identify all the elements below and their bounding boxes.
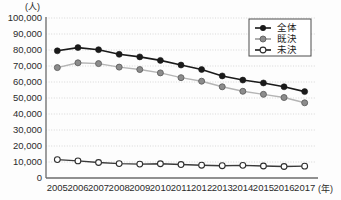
- data-point: [75, 158, 81, 164]
- y-tick-label: 90,000: [13, 28, 42, 39]
- data-point: [302, 100, 308, 106]
- data-point: [199, 78, 205, 84]
- x-tick-label: 2009: [129, 182, 150, 193]
- y-tick-label: 40,000: [13, 108, 42, 119]
- line-chart: 010,00020,00030,00040,00050,00060,00070,…: [0, 0, 341, 200]
- x-tick-label: 2017: [294, 182, 315, 193]
- data-point: [178, 62, 184, 68]
- data-point: [302, 163, 308, 169]
- data-point: [281, 164, 287, 170]
- x-tick-label: 2006: [67, 182, 88, 193]
- y-tick-label: 30,000: [13, 124, 42, 135]
- data-point: [54, 48, 60, 54]
- data-point: [157, 161, 163, 167]
- data-point: [137, 161, 143, 167]
- y-tick-label: 100,000: [8, 12, 42, 23]
- data-point: [75, 45, 81, 51]
- y-tick-label: 50,000: [13, 92, 42, 103]
- data-point: [178, 75, 184, 81]
- data-point: [281, 95, 287, 101]
- legend-label: 全体: [277, 22, 297, 33]
- y-tick-label: 20,000: [13, 140, 42, 151]
- y-axis-tick-labels: 010,00020,00030,00040,00050,00060,00070,…: [8, 12, 42, 183]
- legend-label: 既決: [277, 33, 297, 44]
- data-point: [260, 91, 266, 97]
- legend-marker-open-circle-icon: [260, 47, 266, 53]
- data-point: [302, 89, 308, 95]
- data-point: [219, 163, 225, 169]
- data-point: [157, 57, 163, 63]
- y-tick-label: 70,000: [13, 60, 42, 71]
- x-tick-label: 2015: [253, 182, 274, 193]
- chart-container: 010,00020,00030,00040,00050,00060,00070,…: [0, 0, 341, 200]
- y-tick-label: 60,000: [13, 76, 42, 87]
- data-point: [96, 61, 102, 67]
- x-tick-label: 2014: [232, 182, 253, 193]
- data-point: [137, 67, 143, 73]
- data-point: [219, 73, 225, 79]
- data-point: [240, 88, 246, 94]
- data-point: [261, 163, 267, 169]
- data-point: [240, 162, 246, 168]
- x-axis-unit-label: (年): [318, 183, 333, 194]
- data-point: [116, 64, 122, 70]
- data-point: [157, 70, 163, 76]
- data-point: [178, 162, 184, 168]
- data-point: [96, 160, 102, 166]
- data-point: [54, 157, 60, 163]
- y-tick-label: 0: [37, 172, 42, 183]
- data-point: [75, 60, 81, 66]
- x-tick-label: 2013: [212, 182, 233, 193]
- y-tick-label: 80,000: [13, 44, 42, 55]
- x-tick-label: 2010: [150, 182, 171, 193]
- x-tick-label: 2012: [191, 182, 212, 193]
- x-axis-tick-labels: 2005200620072008200920102011201220132014…: [47, 182, 315, 193]
- data-point: [281, 84, 287, 90]
- data-point: [240, 77, 246, 83]
- legend-label: 未決: [277, 44, 297, 55]
- legend-marker-filled-circle-icon: [260, 25, 266, 31]
- y-axis-unit-label: (人): [25, 2, 40, 12]
- y-tick-label: 10,000: [13, 156, 42, 167]
- data-point: [116, 161, 122, 167]
- x-tick-label: 2005: [47, 182, 68, 193]
- data-point: [137, 54, 143, 60]
- data-point: [116, 51, 122, 57]
- data-point: [199, 67, 205, 73]
- legend-marker-gray-circle-icon: [260, 36, 266, 42]
- data-point: [96, 47, 102, 53]
- data-point: [199, 162, 205, 168]
- x-tick-label: 2008: [109, 182, 130, 193]
- x-tick-label: 2007: [88, 182, 109, 193]
- x-tick-label: 2011: [171, 182, 191, 193]
- data-point: [219, 84, 225, 90]
- x-tick-label: 2016: [273, 182, 294, 193]
- chart-legend: 全体既決未決: [249, 19, 311, 56]
- data-point: [260, 80, 266, 86]
- data-point: [54, 65, 60, 71]
